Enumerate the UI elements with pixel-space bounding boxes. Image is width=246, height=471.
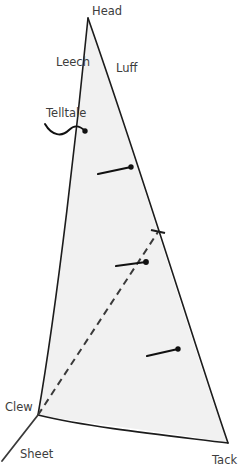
label-luff: Luff [116, 61, 138, 75]
sail-diagram: Head Leech Luff Telltale Clew Sheet Tack [0, 0, 246, 471]
label-clew: Clew [5, 400, 33, 414]
label-sheet: Sheet [20, 447, 54, 461]
leech-telltale-dot [82, 128, 87, 133]
upper-telltale-dot [128, 164, 133, 169]
middle-telltale-dot [143, 259, 149, 265]
sail-body-shape [38, 18, 228, 443]
label-leech: Leech [56, 55, 90, 69]
label-head: Head [92, 4, 122, 18]
lower-telltale-dot [175, 346, 180, 351]
label-telltale: Telltale [45, 106, 86, 120]
label-tack: Tack [211, 453, 237, 467]
